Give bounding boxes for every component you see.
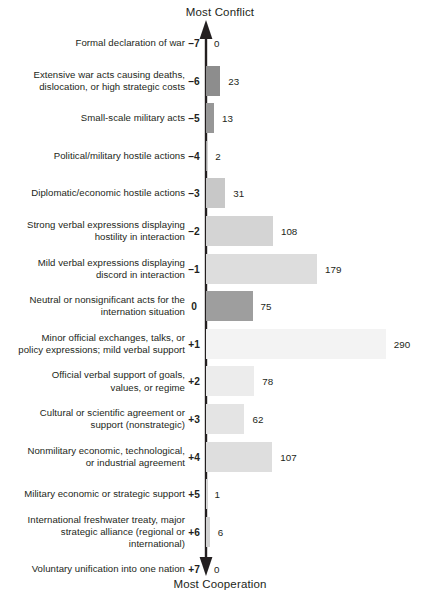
bar-value-label: 75 [261, 301, 272, 312]
chart-row: Military economic or strategic support+5… [0, 477, 428, 511]
row-scale-value: +4 [186, 451, 202, 462]
bar-value-label: 290 [394, 338, 410, 349]
axis-top-label: Most Conflict [0, 6, 428, 18]
chart-row: Formal declaration of war–70 [0, 26, 428, 60]
row-label: Cultural or scientific agreement orsuppo… [5, 407, 185, 431]
chart-row: Extensive war acts causing deaths,disloc… [0, 64, 428, 98]
bar [206, 66, 220, 96]
row-label: Political/military hostile actions [5, 150, 185, 162]
bar-value-label: 62 [252, 414, 263, 425]
axis-bottom-label: Most Cooperation [0, 578, 428, 590]
bar [206, 442, 272, 472]
row-scale-value: +1 [186, 338, 202, 349]
chart-row: Minor official exchanges, talks, orpolic… [0, 327, 428, 361]
bar-value-label: 78 [262, 376, 273, 387]
row-label: International freshwater treaty, majorst… [5, 513, 185, 550]
bar-value-label: 31 [233, 188, 244, 199]
row-label: Small-scale military acts [5, 112, 185, 124]
bar-value-label: 107 [280, 451, 296, 462]
bar-value-label: 0 [214, 564, 219, 575]
row-label: Neutral or nonsignificant acts for thein… [5, 294, 185, 318]
chart-row: Cultural or scientific agreement orsuppo… [0, 402, 428, 436]
bar [206, 517, 210, 547]
row-label: Formal declaration of war [5, 37, 185, 49]
bar-value-label: 6 [218, 526, 223, 537]
chart-row: Mild verbal expressions displayingdiscor… [0, 252, 428, 286]
bar-value-label: 13 [222, 113, 233, 124]
bar [206, 366, 254, 396]
chart-row: Strong verbal expressions displayinghost… [0, 214, 428, 248]
chart-row: Neutral or nonsignificant acts for thein… [0, 289, 428, 323]
row-label: Mild verbal expressions displayingdiscor… [5, 256, 185, 280]
bar-value-label: 23 [228, 75, 239, 86]
row-label: Voluntary unification into one nation [5, 563, 185, 575]
bar [206, 291, 253, 321]
chart-row: Nonmilitary economic, technological,or i… [0, 440, 428, 474]
row-label: Minor official exchanges, talks, orpolic… [5, 332, 185, 356]
bar [206, 329, 386, 359]
chart-row: Small-scale military acts–513 [0, 101, 428, 135]
row-label: Nonmilitary economic, technological,or i… [5, 444, 185, 468]
bar [206, 254, 317, 284]
row-scale-value: –3 [186, 188, 202, 199]
bar [206, 103, 214, 133]
bar-value-label: 179 [325, 263, 341, 274]
chart-row: Official verbal support of goals,values,… [0, 364, 428, 398]
conflict-cooperation-chart: Most Conflict Formal declaration of war–… [0, 0, 428, 600]
row-scale-value: +6 [186, 526, 202, 537]
row-scale-value: +2 [186, 376, 202, 387]
row-scale-value: +5 [186, 489, 202, 500]
row-label: Official verbal support of goals,values,… [5, 369, 185, 393]
bar [206, 404, 244, 434]
bar [206, 216, 273, 246]
bar-value-label: 0 [214, 38, 219, 49]
row-scale-value: +3 [186, 414, 202, 425]
row-scale-value: –4 [186, 150, 202, 161]
chart-row: Diplomatic/economic hostile actions–331 [0, 176, 428, 210]
chart-row: International freshwater treaty, majorst… [0, 515, 428, 549]
row-scale-value: +7 [186, 564, 202, 575]
row-label: Diplomatic/economic hostile actions [5, 187, 185, 199]
chart-row: Political/military hostile actions–42 [0, 139, 428, 173]
bar-value-label: 108 [281, 226, 297, 237]
row-scale-value: –1 [186, 263, 202, 274]
row-scale-value: –6 [186, 75, 202, 86]
row-scale-value: –7 [186, 38, 202, 49]
row-scale-value: –2 [186, 226, 202, 237]
row-label: Military economic or strategic support [5, 488, 185, 500]
bar [206, 141, 207, 171]
row-scale-value: 0 [186, 301, 202, 312]
row-label: Extensive war acts causing deaths,disloc… [5, 68, 185, 92]
bar [206, 479, 207, 509]
bar-value-label: 2 [215, 150, 220, 161]
bar-value-label: 1 [215, 489, 220, 500]
bar [206, 178, 225, 208]
row-scale-value: –5 [186, 113, 202, 124]
row-label: Strong verbal expressions displayinghost… [5, 219, 185, 243]
